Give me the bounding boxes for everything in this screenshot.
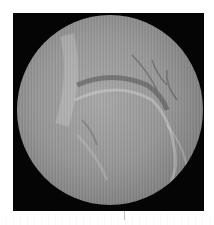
image-frame — [13, 13, 204, 211]
circular-field-of-view — [17, 15, 203, 205]
anatomical-structures — [17, 15, 203, 205]
bottom-margin — [0, 214, 214, 225]
